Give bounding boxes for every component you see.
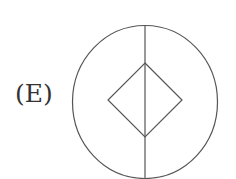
circle-diamond-figure — [0, 0, 236, 179]
